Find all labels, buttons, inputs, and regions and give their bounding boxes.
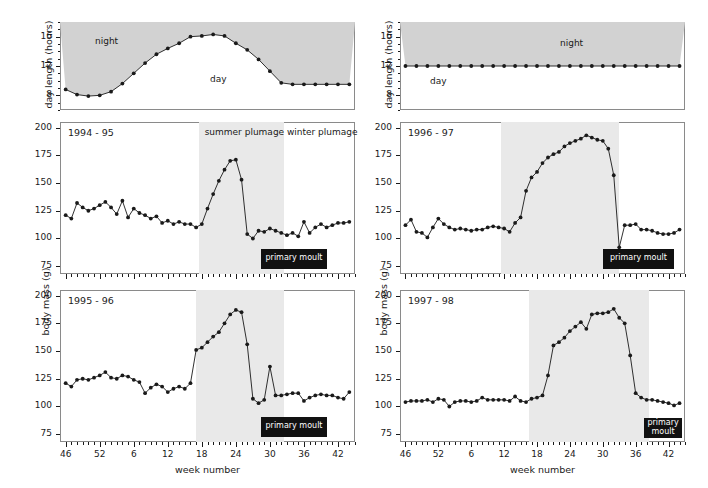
x-minor-tick (276, 442, 277, 445)
x-minor-tick (641, 442, 642, 445)
data-point (240, 178, 244, 182)
x-tick-label: 6 (120, 449, 148, 459)
x-tick (471, 274, 472, 279)
data-point (469, 229, 473, 233)
data-point (584, 327, 588, 331)
data-point (404, 223, 408, 227)
x-minor-tick (455, 442, 456, 445)
x-tick (338, 442, 339, 447)
data-point (601, 139, 605, 143)
x-minor-tick (553, 442, 554, 445)
x-tick (270, 442, 271, 447)
data-point (279, 394, 283, 398)
x-minor-tick (128, 274, 129, 277)
x-minor-tick (515, 442, 516, 445)
data-point (672, 403, 676, 407)
y-tick (56, 406, 60, 407)
daylength-1-series (400, 22, 685, 110)
y-tick-label: 75 (28, 428, 52, 438)
data-point (541, 161, 545, 165)
y-tick-label: 175 (368, 317, 392, 327)
x-minor-tick (208, 442, 209, 445)
data-point (200, 346, 204, 350)
x-minor-tick (276, 274, 277, 277)
x-minor-tick (658, 442, 659, 445)
y-tick (396, 155, 400, 156)
x-minor-tick (680, 442, 681, 445)
x-tick (504, 274, 505, 279)
data-point (251, 397, 255, 401)
x-minor-tick (630, 442, 631, 445)
x-minor-tick (111, 274, 112, 277)
data-point (672, 231, 676, 235)
x-minor-tick (553, 274, 554, 277)
data-point (342, 397, 346, 401)
data-point (508, 399, 512, 403)
data-point (138, 211, 142, 215)
data-point (568, 64, 572, 68)
x-minor-tick (327, 442, 328, 445)
data-point (486, 226, 490, 230)
data-point (590, 313, 594, 317)
data-point (296, 234, 300, 238)
data-point (81, 206, 85, 210)
x-minor-tick (315, 442, 316, 445)
data-point (245, 48, 249, 52)
data-point (546, 156, 550, 160)
x-minor-tick (117, 274, 118, 277)
data-point (590, 64, 594, 68)
data-point (420, 231, 424, 235)
data-point (98, 93, 102, 97)
data-point (524, 64, 528, 68)
y-tick (396, 323, 400, 324)
primary-moult-bar: primary moult (644, 418, 682, 438)
data-point (453, 228, 457, 232)
x-minor-tick (674, 274, 675, 277)
data-point (75, 93, 79, 97)
x-minor-tick (213, 274, 214, 277)
y-tick (56, 351, 60, 352)
data-point (325, 394, 329, 398)
y-minor-tick (398, 22, 401, 23)
x-minor-tick (344, 274, 345, 277)
data-point (177, 41, 181, 45)
x-tick (134, 442, 135, 447)
daylength-axis-title: day length (hours) (383, 15, 394, 115)
x-minor-tick (139, 274, 140, 277)
data-point (584, 133, 588, 137)
data-point (172, 222, 176, 226)
x-minor-tick (293, 442, 294, 445)
x-minor-tick (310, 442, 311, 445)
x-minor-tick (526, 274, 527, 277)
data-point (234, 41, 238, 45)
x-tick (537, 274, 538, 279)
data-point (126, 375, 130, 379)
x-minor-tick (355, 442, 356, 445)
x-tick (570, 442, 571, 447)
data-point (206, 340, 210, 344)
x-tick (100, 274, 101, 279)
y-tick (396, 183, 400, 184)
primary-moult-bar: primary moult (261, 249, 326, 269)
data-point (126, 216, 130, 220)
x-tick (603, 274, 604, 279)
x-minor-tick (460, 442, 461, 445)
y-minor-tick (58, 110, 61, 111)
data-point (166, 47, 170, 51)
x-minor-tick (680, 274, 681, 277)
data-point (143, 391, 147, 395)
data-point (601, 64, 605, 68)
x-minor-tick (427, 274, 428, 277)
y-minor-tick (398, 59, 401, 60)
y-tick-label: 175 (28, 149, 52, 159)
y-minor-tick (58, 44, 61, 45)
x-minor-tick (83, 442, 84, 445)
data-point (274, 394, 278, 398)
x-minor-tick (128, 442, 129, 445)
mass-axis-title: body mass (g) (378, 247, 389, 357)
x-minor-tick (477, 274, 478, 277)
x-minor-tick (281, 442, 282, 445)
x-minor-tick (94, 274, 95, 277)
x-tick (504, 442, 505, 447)
x-minor-tick (259, 442, 260, 445)
